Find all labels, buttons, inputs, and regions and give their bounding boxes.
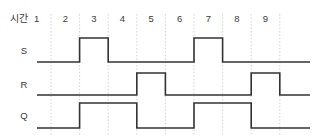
- time-tick-label-1: 1: [34, 13, 39, 24]
- time-tick-labels: 123456789: [34, 13, 268, 24]
- signal-label-s: S: [21, 45, 27, 56]
- waveform-s: [37, 38, 310, 62]
- time-axis-caption: 시간: [10, 13, 28, 24]
- time-tick-label-5: 5: [148, 13, 153, 24]
- time-tick-label-4: 4: [120, 13, 125, 24]
- waveform-q: [37, 103, 310, 128]
- signal-label-q: Q: [20, 110, 27, 121]
- signal-labels: SRQ: [20, 45, 27, 121]
- time-tick-label-6: 6: [177, 13, 182, 24]
- waveform-r: [37, 73, 310, 95]
- time-tick-label-7: 7: [206, 13, 211, 24]
- timing-diagram-canvas: 123456789 SRQ 시간: [0, 0, 321, 140]
- signal-label-r: R: [21, 79, 28, 90]
- time-tick-label-9: 9: [263, 13, 268, 24]
- time-tick-label-3: 3: [91, 13, 96, 24]
- waveforms: [37, 38, 310, 128]
- time-tick-label-8: 8: [234, 13, 239, 24]
- timing-diagram: 123456789 SRQ 시간: [0, 0, 321, 140]
- time-tick-label-2: 2: [63, 13, 68, 24]
